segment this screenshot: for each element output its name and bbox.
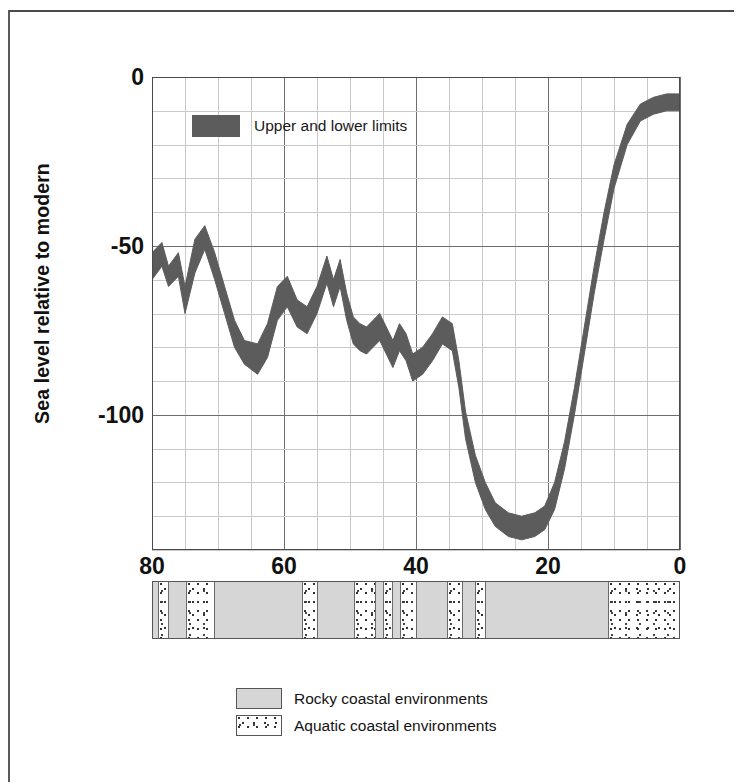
environment-segment-rocky [463,582,475,638]
sea-level-band-shape [152,94,680,540]
environment-segment-rocky [318,582,354,638]
series-legend-label: Upper and lower limits [254,117,407,135]
y-tick-label: -50 [111,232,144,259]
sea-level-band [152,77,680,550]
environment-segment-rocky [215,582,302,638]
plot-border-bottom [152,549,680,550]
plot-border-left [152,77,153,550]
environment-segment-aquatic [608,582,680,638]
environment-segment-rocky [393,582,400,638]
plot-area: Upper and lower limits [152,77,680,550]
environment-segment-aquatic [186,582,215,638]
environment-legend-swatch-rocky [236,688,282,709]
environment-segment-rocky [376,582,383,638]
environment-segment-aquatic [400,582,417,638]
environment-legend-row: Rocky coastal environments [236,688,496,709]
environment-legend: Rocky coastal environmentsAquatic coasta… [236,688,496,736]
y-tick-label: 0 [131,64,144,91]
environment-segment-rocky [169,582,186,638]
x-tick-label: 20 [535,553,561,580]
environment-segment-aquatic [383,582,394,638]
environment-bar [152,581,680,639]
plot-border-top [152,77,680,78]
y-tick-label: -100 [98,401,144,428]
environment-segment-rocky [486,582,609,638]
environment-legend-swatch-aquatic [236,715,282,736]
series-legend: Upper and lower limits [192,115,407,137]
y-gridline-minor [152,550,680,551]
environment-segment-aquatic [447,582,463,638]
environment-segment-aquatic [354,582,376,638]
plot-border-right [679,77,680,550]
sea-level-figure: Sea level relative to modern Upper and l… [0,0,739,784]
x-tick-label: 80 [139,553,165,580]
environment-legend-row: Aquatic coastal environments [236,715,496,736]
environment-segment-rocky [417,582,447,638]
x-tick-label: 60 [271,553,297,580]
environment-segment-aquatic [302,582,318,638]
environment-legend-label: Rocky coastal environments [294,690,488,708]
x-tick-label: 40 [403,553,429,580]
x-tick-label: 0 [674,553,687,580]
environment-legend-label: Aquatic coastal environments [294,717,496,735]
series-legend-swatch [192,115,240,137]
x-gridline-major [680,77,681,550]
y-axis-title: Sea level relative to modern [31,94,54,494]
environment-segment-aquatic [475,582,486,638]
environment-segment-aquatic [158,582,169,638]
